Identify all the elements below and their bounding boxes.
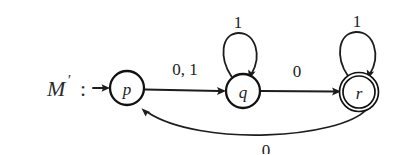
self-loop-q: 1 (223, 13, 256, 80)
transition-p-to-q: 0, 1 (145, 60, 226, 95)
machine-name-prime-icon: ′ (67, 72, 71, 88)
self-loop-q-label: 1 (234, 13, 243, 32)
transition-r-to-p-label: 0 (262, 141, 271, 155)
state-r[interactable]: r (340, 73, 379, 112)
state-q-label: q (239, 83, 248, 102)
machine-name-label: M ′ : (46, 72, 86, 101)
state-q[interactable]: q (226, 74, 260, 108)
self-loop-r: 1 (340, 12, 375, 80)
automaton-diagram: M ′ : 0, 1 0 1 (0, 0, 396, 154)
state-r-label: r (356, 84, 363, 103)
transition-q-to-r: 0 (261, 62, 341, 96)
transition-p-to-q-line (145, 90, 219, 92)
transition-r-to-p-arc (147, 109, 367, 135)
state-p[interactable]: p (110, 71, 144, 105)
start-arrow (93, 84, 110, 91)
transition-r-to-p: 0 (142, 108, 368, 154)
state-p-label: p (122, 80, 132, 99)
transition-q-to-r-label: 0 (293, 62, 302, 81)
self-loop-r-path (340, 32, 375, 76)
automaton-canvas: M ′ : 0, 1 0 1 (0, 0, 396, 154)
transition-r-to-p-arrowhead-icon (142, 108, 151, 116)
self-loop-q-path (223, 33, 256, 77)
machine-name-colon: : (80, 76, 86, 101)
transition-p-to-q-label: 0, 1 (172, 60, 198, 79)
transition-q-to-r-line (261, 91, 334, 92)
self-loop-r-label: 1 (353, 12, 362, 31)
machine-name-text: M (46, 76, 67, 101)
